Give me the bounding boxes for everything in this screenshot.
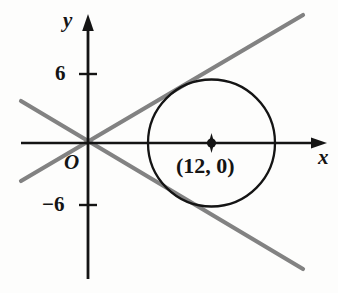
x-axis-label: x <box>318 147 329 168</box>
figure-canvas <box>0 0 338 293</box>
tangent-line-lower <box>21 101 303 269</box>
circle-center-spike-icon <box>209 133 215 153</box>
y-tick-label-minus-6: −6 <box>42 194 64 215</box>
y-axis-label: y <box>63 10 72 31</box>
y-tick-label-6: 6 <box>55 63 66 84</box>
circle-center-coordinate-label: (12, 0) <box>176 155 235 177</box>
origin-label: O <box>64 152 79 173</box>
math-figure: y x O 6 −6 (12, 0) <box>0 0 338 293</box>
y-axis-arrow-icon <box>82 14 94 31</box>
